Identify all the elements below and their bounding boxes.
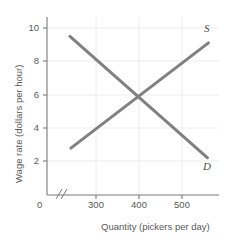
y-tick-label-10: 10 [20, 22, 39, 33]
axis-break-icon [56, 189, 67, 199]
supply-demand-chart: 10 8 6 4 2 0 300 400 500 Wage rate (doll… [0, 0, 246, 242]
x-tick-label-400: 400 [124, 199, 154, 210]
demand-curve-label: D [203, 160, 211, 172]
supply-curve-label: S [204, 22, 210, 34]
origin-label: 0 [37, 199, 42, 210]
y-axis-ticks [43, 28, 47, 161]
x-tick-label-500: 500 [167, 199, 197, 210]
vertical-gridlines [96, 17, 182, 195]
x-tick-label-300: 300 [81, 199, 111, 210]
y-axis-title: Wage rate (dollars per hour) [13, 65, 24, 183]
x-axis-title: Quantity (pickers per day) [101, 221, 210, 232]
horizontal-gridlines [47, 28, 219, 161]
